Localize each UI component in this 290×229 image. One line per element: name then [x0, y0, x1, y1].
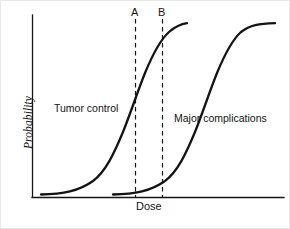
- curve-label-tumor-control: Tumor control: [54, 103, 118, 114]
- dose-response-figure: Probability Dose A B Tumor control Major…: [0, 0, 290, 229]
- curve-label-major-complications: Major complications: [174, 113, 267, 124]
- reference-label-b: B: [158, 7, 165, 18]
- y-axis-label: Probability: [23, 96, 35, 149]
- x-axis-label: Dose: [136, 201, 162, 212]
- reference-label-a: A: [131, 7, 138, 18]
- curve-major-complications: [113, 23, 275, 194]
